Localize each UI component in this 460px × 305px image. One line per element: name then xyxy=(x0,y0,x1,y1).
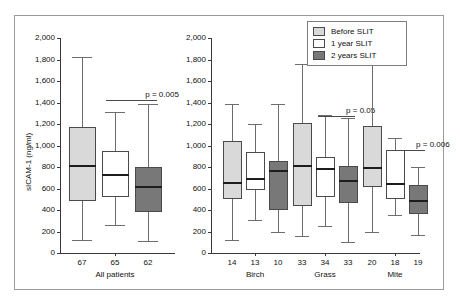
x-axis-count-label: 62 xyxy=(134,259,162,267)
y-axis-tick xyxy=(57,146,60,147)
whisker-cap xyxy=(341,242,355,243)
x-axis-line xyxy=(60,253,175,254)
whisker-line xyxy=(148,104,149,167)
y-axis-line xyxy=(211,38,212,254)
y-axis-tick-label: 1,600 xyxy=(25,77,55,85)
whisker-cap xyxy=(365,232,379,233)
whisker-cap xyxy=(138,241,157,242)
median-line xyxy=(223,182,242,184)
legend-item-label: 2 years SLIT xyxy=(331,51,376,60)
y-axis-tick xyxy=(57,124,60,125)
pvalue-bracket xyxy=(318,116,354,117)
x-axis-tick xyxy=(115,253,116,256)
whisker-line xyxy=(278,104,279,161)
y-axis-tick-label: 600 xyxy=(176,185,206,193)
whisker-cap xyxy=(271,232,285,233)
box-birch-1 xyxy=(223,141,242,199)
y-axis-tick xyxy=(57,81,60,82)
whisker-cap xyxy=(341,118,355,119)
legend-swatch-icon xyxy=(313,51,325,60)
y-axis-tick-label: 0 xyxy=(176,249,206,257)
whisker-cap xyxy=(248,220,262,221)
y-axis-tick-label: 1,000 xyxy=(176,142,206,150)
median-line xyxy=(69,165,96,167)
legend-swatch-icon xyxy=(313,27,325,36)
y-axis-tick xyxy=(57,60,60,61)
whisker-line xyxy=(115,197,116,225)
y-axis-tick-label: 1,800 xyxy=(25,56,55,64)
whisker-line xyxy=(302,206,303,236)
y-axis-tick xyxy=(208,167,211,168)
y-axis-tick xyxy=(57,189,60,190)
pvalue-label: p = 0.006 xyxy=(416,141,450,149)
figure-frame: 02004006008001,0001,2001,4001,6001,8002,… xyxy=(14,15,444,290)
median-line xyxy=(293,165,312,167)
pvalue-label: p = 0.05 xyxy=(346,107,375,115)
y-axis-tick-label: 2,000 xyxy=(176,34,206,42)
legend-item-label: 1 year SLIT xyxy=(331,39,372,48)
y-axis-tick-label: 0 xyxy=(25,249,55,257)
x-axis-count-label: 65 xyxy=(101,259,129,267)
legend-item-3: 2 years SLIT xyxy=(313,50,401,61)
y-axis-tick xyxy=(208,210,211,211)
whisker-cap xyxy=(388,215,402,216)
y-axis-tick-label: 1,800 xyxy=(176,56,206,64)
box-grass-3 xyxy=(339,166,358,203)
y-axis-tick-label: 1,200 xyxy=(25,120,55,128)
whisker-cap xyxy=(411,235,425,236)
y-axis-tick xyxy=(57,103,60,104)
y-axis-tick xyxy=(208,60,211,61)
x-axis-group-label: All patients xyxy=(75,271,155,279)
box-birch-3 xyxy=(269,161,288,210)
y-axis-tick-label: 2,000 xyxy=(25,34,55,42)
legend-item-2: 1 year SLIT xyxy=(313,38,401,49)
whisker-line xyxy=(348,118,349,166)
median-line xyxy=(386,183,405,185)
whisker-line xyxy=(372,187,373,232)
x-axis-count-label: 19 xyxy=(404,259,432,267)
box-mite-2 xyxy=(386,150,405,199)
whisker-cap xyxy=(225,104,239,105)
whisker-line xyxy=(372,57,373,126)
median-line xyxy=(339,180,358,182)
legend-swatch-icon xyxy=(313,39,325,48)
whisker-cap xyxy=(105,112,124,113)
y-axis-tick xyxy=(208,189,211,190)
y-axis-tick xyxy=(57,210,60,211)
box-mite-3 xyxy=(409,185,428,214)
box-birch-2 xyxy=(246,152,265,190)
whisker-line xyxy=(232,104,233,141)
y-axis-tick-label: 1,200 xyxy=(176,120,206,128)
whisker-cap xyxy=(72,57,91,58)
y-axis-tick xyxy=(208,232,211,233)
y-axis-tick-label: 1,400 xyxy=(25,99,55,107)
y-axis-tick-label: 1,600 xyxy=(176,77,206,85)
median-line xyxy=(269,170,288,172)
y-axis-tick xyxy=(208,38,211,39)
x-axis-group-label: Mite xyxy=(355,271,435,279)
chart-legend: Before SLIT1 year SLIT2 years SLIT xyxy=(307,21,407,66)
whisker-line xyxy=(82,57,83,127)
box-mite-1 xyxy=(363,126,382,187)
y-axis-tick xyxy=(57,232,60,233)
whisker-line xyxy=(325,197,326,227)
whisker-line xyxy=(278,210,279,232)
y-axis-tick xyxy=(208,146,211,147)
whisker-line xyxy=(395,199,396,216)
whisker-line xyxy=(302,64,303,123)
y-axis-tick xyxy=(57,38,60,39)
pvalue-label: p = 0.005 xyxy=(145,91,179,99)
y-axis-tick xyxy=(57,167,60,168)
whisker-line xyxy=(232,199,233,239)
whisker-cap xyxy=(271,104,285,105)
legend-item-label: Before SLIT xyxy=(331,27,374,36)
y-axis-tick-label: 400 xyxy=(176,206,206,214)
x-axis-tick xyxy=(395,253,396,256)
y-axis-title: sICAM-1 (ng/ml) xyxy=(24,133,33,191)
whisker-cap xyxy=(318,226,332,227)
whisker-line xyxy=(395,138,396,150)
whisker-line xyxy=(255,190,256,220)
median-line xyxy=(363,167,382,169)
median-line xyxy=(102,174,129,176)
whisker-line xyxy=(255,124,256,152)
